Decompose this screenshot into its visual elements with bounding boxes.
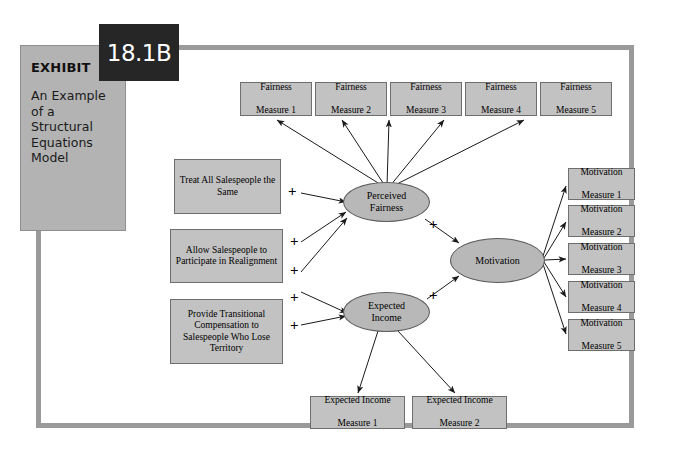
antecedent-3-text: Provide Transitional Compensation to Sal… [171,309,282,355]
motivation-measure-box-1: Motivation Measure 1 [568,168,635,200]
path-sign-antecedent3-fairness: + [290,263,299,278]
antecedent-box-allow-salespeople-to-participate: Allow Salespeople to Participate in Real… [170,229,283,283]
fairness-measure-box-3: Fairness Measure 3 [390,82,462,116]
motivation-measure-2-line2: Measure 2 [578,227,624,239]
motivation-measure-box-3: Motivation Measure 3 [568,243,635,275]
motivation-measure-4-line2: Measure 4 [578,303,624,315]
antecedent-box-treat-all-salespeople-the-same: Treat All Salespeople the Same [174,159,281,214]
antecedent-box-provide-transitional-compensation: Provide Transitional Compensation to Sal… [170,299,283,364]
motivation-measure-3-line2: Measure 3 [578,265,624,277]
motivation-measure-box-2: Motivation Measure 2 [568,205,635,237]
motivation-measure-1-line1: Motivation [578,167,624,179]
fairness-measure-1-line1: Fairness [254,82,298,94]
perceived-fairness-line1: Perceived [367,190,406,201]
fairness-measure-box-4: Fairness Measure 4 [465,82,537,116]
fairness-measure-box-5: Fairness Measure 5 [540,82,612,116]
fairness-measure-box-2: Fairness Measure 2 [315,82,387,116]
motivation-measure-box-4: Motivation Measure 4 [568,281,635,313]
path-sign-antecedent1-fairness: + [288,184,297,199]
motivation-measure-1-line2: Measure 1 [578,190,624,202]
fairness-measure-5-line1: Fairness [554,82,598,94]
exhibit-title: An Example of a Structural Equations Mod… [31,88,115,166]
motivation-measure-5-line1: Motivation [578,318,624,330]
antecedent-1-text: Treat All Salespeople the Same [175,175,280,198]
path-sign-antecedent4-income: + [290,290,299,305]
latent-expected-income: Expected Income [343,292,430,332]
income-measure-1-line2: Measure 1 [322,418,392,430]
expected-income-measure-box-1: Expected Income Measure 1 [310,396,405,429]
latent-perceived-fairness: Perceived Fairness [343,182,430,222]
exhibit-number-box: 18.1B [99,24,179,81]
fairness-measure-5-line2: Measure 5 [554,105,598,117]
income-measure-2-line1: Expected Income [424,395,494,407]
fairness-measure-4-line2: Measure 4 [479,105,523,117]
motivation-measure-2-line1: Motivation [578,204,624,216]
expected-income-measure-box-2: Expected Income Measure 2 [412,396,507,429]
fairness-measure-3-line2: Measure 3 [404,105,448,117]
path-sign-antecedent2-fairness: + [290,234,299,249]
motivation-measure-5-line2: Measure 5 [578,341,624,353]
motivation-measure-4-line1: Motivation [578,280,624,292]
motivation-measure-3-line1: Motivation [578,242,624,254]
expected-income-line2: Income [371,312,401,323]
income-measure-1-line1: Expected Income [322,395,392,407]
expected-income-line1: Expected [368,300,405,311]
income-measure-2-line2: Measure 2 [424,418,494,430]
motivation-measure-box-5: Motivation Measure 5 [568,319,635,351]
path-sign-income-motivation: + [429,288,438,303]
antecedent-2-text: Allow Salespeople to Participate in Real… [171,245,282,268]
exhibit-number: 18.1B [107,40,172,66]
motivation-label: Motivation [475,255,519,267]
fairness-measure-4-line1: Fairness [479,82,523,94]
fairness-measure-box-1: Fairness Measure 1 [240,82,312,116]
fairness-measure-3-line1: Fairness [404,82,448,94]
latent-motivation: Motivation [450,238,545,283]
path-sign-fairness-motivation: + [429,217,438,232]
fairness-measure-1-line2: Measure 1 [254,105,298,117]
path-sign-antecedent5-income: + [290,318,299,333]
perceived-fairness-line2: Fairness [370,202,403,213]
fairness-measure-2-line1: Fairness [329,82,373,94]
fairness-measure-2-line2: Measure 2 [329,105,373,117]
